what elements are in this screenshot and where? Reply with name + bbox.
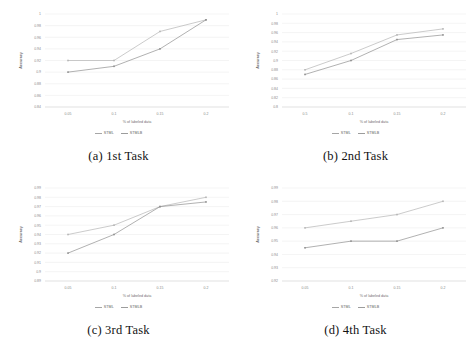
x-tick-label: 0.2 [441, 286, 446, 290]
chart-a: 0.840.860.880.90.920.940.960.981Accuracy… [0, 4, 237, 130]
series-line-stml [305, 29, 443, 70]
chart-c: 0.890.90.910.920.930.940.950.960.970.980… [0, 178, 237, 304]
legend-entry-stmlb[interactable]: STMLB [121, 305, 142, 309]
x-tick-label: 0.2 [441, 112, 446, 116]
y-tick-label: 0.88 [34, 82, 41, 86]
y-tick-label: 1 [276, 12, 278, 16]
x-tick-label: 0.1 [349, 112, 354, 116]
y-tick-label: 0.94 [271, 253, 278, 257]
y-axis-title: Accuracy [19, 51, 23, 69]
y-tick-label: 0.88 [271, 68, 278, 72]
data-point-stml [350, 220, 352, 222]
subfigure-c: 0.890.90.910.920.930.940.950.960.970.980… [0, 174, 237, 348]
legend-d: STMLSTMLB [237, 305, 474, 309]
legend-label: STML [104, 305, 114, 309]
data-point-stmlb [205, 19, 207, 21]
series-line-stmlb [68, 202, 206, 253]
x-tick-label: 0.15 [157, 112, 164, 116]
data-point-stml [159, 31, 161, 33]
y-tick-label: 0.92 [34, 59, 41, 63]
y-tick-label: 0.84 [34, 105, 41, 109]
y-tick-label: 0.94 [34, 233, 41, 237]
y-tick-label: 0.82 [271, 96, 278, 100]
x-axis-title: % of labeled data [360, 294, 389, 298]
y-tick-label: 0.98 [34, 196, 41, 200]
caption-c: (c) 3rd Task [0, 323, 237, 338]
data-point-stml [113, 224, 115, 226]
caption-a: (a) 1st Task [0, 149, 237, 164]
legend-entry-stml[interactable]: STML [332, 305, 351, 309]
legend-entry-stmlb[interactable]: STMLB [358, 305, 379, 309]
series-line-stmlb [305, 228, 443, 248]
y-axis-title: Accuracy [19, 225, 23, 243]
y-tick-label: 0.93 [34, 242, 41, 246]
x-tick-label: 0.5 [303, 112, 308, 116]
legend-label: STMLB [130, 305, 142, 309]
y-axis-title: Accuracy [256, 51, 260, 69]
x-tick-label: 0.2 [204, 112, 209, 116]
subfigure-a: 0.840.860.880.90.920.940.960.981Accuracy… [0, 0, 237, 174]
y-tick-label: 0.96 [271, 31, 278, 35]
data-point-stml [350, 53, 352, 55]
legend-entry-stml[interactable]: STML [95, 131, 114, 135]
caption-b: (b) 2nd Task [237, 149, 474, 164]
y-tick-label: 0.99 [34, 186, 41, 190]
y-tick-label: 0.92 [34, 251, 41, 255]
legend-swatch-icon [95, 307, 102, 308]
data-point-stml [442, 200, 444, 202]
data-point-stmlb [442, 227, 444, 229]
legend-entry-stmlb[interactable]: STMLB [121, 131, 142, 135]
y-tick-label: 0.84 [271, 87, 278, 91]
legend-c: STMLSTMLB [0, 305, 237, 309]
data-point-stmlb [396, 39, 398, 41]
y-tick-label: 0.98 [271, 200, 278, 204]
y-tick-label: 0.86 [34, 94, 41, 98]
data-point-stml [396, 214, 398, 216]
y-tick-label: 0.96 [34, 36, 41, 40]
legend-label: STML [341, 131, 351, 135]
legend-swatch-icon [121, 133, 128, 134]
legend-swatch-icon [95, 133, 102, 134]
figure-grid: 0.840.860.880.90.920.940.960.981Accuracy… [0, 0, 474, 348]
data-point-stml [442, 28, 444, 30]
legend-swatch-icon [358, 307, 365, 308]
data-point-stml [205, 197, 207, 199]
legend-entry-stml[interactable]: STML [332, 131, 351, 135]
y-tick-label: 0.89 [34, 279, 41, 283]
x-tick-label: 0.1 [349, 286, 354, 290]
y-axis-title: Accuracy [256, 225, 260, 243]
y-tick-label: 0.91 [34, 261, 41, 265]
legend-swatch-icon [332, 307, 339, 308]
data-point-stmlb [67, 252, 69, 254]
data-point-stmlb [304, 74, 306, 76]
legend-b: STMLSTMLB [237, 131, 474, 135]
data-point-stmlb [304, 247, 306, 249]
x-tick-label: 0.2 [204, 286, 209, 290]
y-tick-label: 0.86 [271, 77, 278, 81]
legend-entry-stmlb[interactable]: STMLB [358, 131, 379, 135]
y-tick-label: 0.94 [271, 40, 278, 44]
data-point-stmlb [396, 240, 398, 242]
y-tick-label: 0.95 [271, 239, 278, 243]
x-axis-title: % of labeled data [123, 120, 152, 124]
x-tick-label: 0.15 [157, 286, 164, 290]
y-tick-label: 0.9 [36, 270, 41, 274]
data-point-stmlb [159, 206, 161, 208]
subfigure-d: 0.920.930.940.950.960.970.980.99Accuracy… [237, 174, 474, 348]
subfigure-b: 0.80.820.840.860.880.90.920.940.960.981A… [237, 0, 474, 174]
series-line-stmlb [305, 35, 443, 75]
data-point-stmlb [350, 60, 352, 62]
legend-entry-stml[interactable]: STML [95, 305, 114, 309]
legend-label: STMLB [130, 131, 142, 135]
chart-d: 0.920.930.940.950.960.970.980.99Accuracy… [237, 178, 474, 304]
y-tick-label: 0.99 [271, 186, 278, 190]
caption-d: (d) 4th Task [237, 323, 474, 338]
y-tick-label: 0.94 [34, 47, 41, 51]
y-tick-label: 0.98 [271, 22, 278, 26]
legend-swatch-icon [121, 307, 128, 308]
legend-swatch-icon [358, 133, 365, 134]
legend-label: STMLB [367, 305, 379, 309]
y-tick-label: 0.9 [273, 59, 278, 63]
chart-b: 0.80.820.840.860.880.90.920.940.960.981A… [237, 4, 474, 130]
data-point-stmlb [350, 240, 352, 242]
